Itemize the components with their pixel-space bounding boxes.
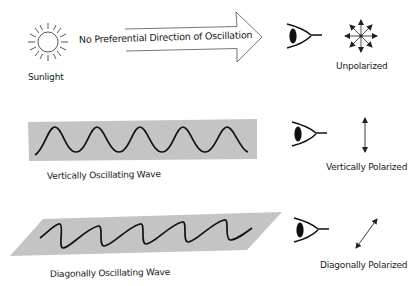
- diagonal-wave-label: Diagonally Oscillating Wave: [50, 267, 170, 279]
- diagonal-double-arrow-icon: [356, 219, 377, 248]
- vertical-wave-band: [28, 119, 257, 161]
- vertically-polarized-label: Vertically Polarized: [326, 162, 407, 172]
- polarization-diagram: [0, 0, 418, 286]
- sunlight-label: Sunlight: [28, 72, 63, 82]
- eye-icon: [294, 218, 329, 242]
- unpolarized-label: Unpolarized: [336, 61, 388, 71]
- diagonal-wave-band: [10, 212, 282, 256]
- sun-icon: [28, 23, 68, 61]
- diagonally-polarized-label: Diagonally Polarized: [320, 260, 407, 270]
- vertical-wave-label: Vertically Oscillating Wave: [47, 169, 161, 181]
- eye-icon: [292, 122, 327, 146]
- eye-icon: [287, 24, 322, 48]
- multi-direction-arrows-icon: [345, 20, 377, 52]
